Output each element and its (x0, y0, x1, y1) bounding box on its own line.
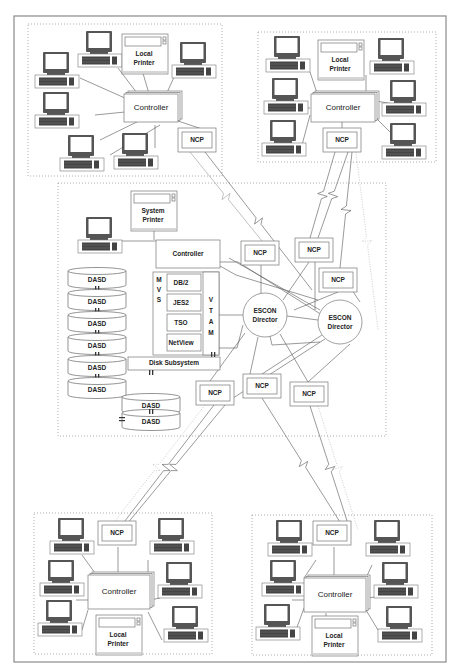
printer-label-line2: Printer (108, 640, 129, 647)
ncp-label: NCP (302, 390, 316, 397)
dasd-disk: DASD (68, 356, 126, 377)
printer-label-line1: Local (326, 632, 343, 639)
controller-label: Controller (102, 587, 137, 596)
mainframe-host: MVSDB/2JES2TSONetViewVTAM (153, 272, 219, 355)
escon-director: ESCONDirector (318, 300, 362, 344)
dasd-disk: DASD (68, 268, 126, 289)
ncp-node: NCP (243, 374, 281, 398)
disk-subsystem-label: Disk Subsystem (149, 359, 199, 367)
escon-label-line1: ESCON (253, 307, 276, 314)
dasd-label: DASD (142, 402, 161, 409)
host-controller: Controller (156, 240, 220, 268)
disk-subsystem: Disk Subsystem (128, 357, 220, 370)
dasd-disk: DASD (68, 312, 126, 333)
controller-label: Controller (134, 103, 169, 112)
dasd-label: DASD (88, 342, 107, 349)
controller: Controller (88, 572, 154, 609)
escon-label-line2: Director (328, 323, 353, 330)
ncp-node: NCP (290, 382, 328, 406)
ncp-node: NCP (196, 381, 234, 405)
ncp-label: NCP (307, 246, 321, 253)
local-printer: LocalPrinter (318, 40, 364, 80)
ncp-node: NCP (98, 521, 136, 545)
dasd-disk: DASD (68, 378, 126, 399)
printer-label-line2: Printer (330, 65, 351, 72)
escon-director: ESCONDirector (243, 293, 287, 337)
ncp-label: NCP (110, 529, 124, 536)
host-controller-label: Controller (172, 250, 204, 257)
escon-label-line1: ESCON (328, 314, 351, 321)
dasd-label: DASD (88, 298, 107, 305)
local-printer: LocalPrinter (122, 34, 168, 74)
ncp-node: NCP (323, 128, 361, 152)
ncp-label: NCP (255, 382, 269, 389)
printer-label-line2: Printer (324, 641, 345, 648)
subsystem-label: DB/2 (174, 279, 189, 286)
local-printer: LocalPrinter (312, 616, 358, 656)
mvs-letter: V (157, 286, 162, 293)
vtam-letter: V (209, 296, 214, 303)
ncp-node: NCP (313, 521, 351, 545)
local-printer: LocalPrinter (96, 615, 142, 655)
network-diagram: LocalPrinterControllerNCPLocalPrinterCon… (0, 0, 456, 671)
controller-label: Controller (326, 103, 361, 112)
dasd-disk: DASD (68, 334, 126, 355)
system-printer: SystemPrinter (131, 191, 177, 231)
mvs-letter: M (156, 276, 161, 283)
ncp-label: NCP (331, 276, 345, 283)
ncp-label: NCP (335, 136, 349, 143)
printer-label-line2: Printer (143, 216, 164, 223)
ncp-node: NCP (241, 241, 279, 265)
vtam-letter: T (209, 307, 213, 314)
dasd-label: DASD (142, 418, 161, 425)
subsystem-label: TSO (174, 319, 187, 326)
controller: Controller (124, 91, 182, 122)
ncp-node: NCP (295, 238, 333, 262)
ncp-label: NCP (253, 249, 267, 256)
dasd-label: DASD (88, 276, 107, 283)
controller: Controller (311, 91, 379, 122)
printer-label-line1: Local (136, 50, 153, 57)
subsystem-label: NetView (168, 339, 194, 346)
subsystem-label: JES2 (173, 299, 189, 306)
vtam-letter: M (208, 329, 213, 336)
dasd-disk: DASD (122, 410, 180, 431)
vtam-letter: A (209, 318, 214, 325)
printer-label-line1: Local (110, 631, 127, 638)
printer-label-line1: Local (332, 56, 349, 63)
dasd-label: DASD (88, 386, 107, 393)
dasd-disk: DASD (68, 290, 126, 311)
ncp-label: NCP (325, 529, 339, 536)
dasd-label: DASD (88, 320, 107, 327)
controller-label: Controller (318, 590, 353, 599)
ncp-label: NCP (208, 389, 222, 396)
printer-label-line2: Printer (134, 59, 155, 66)
ncp-label: NCP (190, 136, 204, 143)
dasd-label: DASD (88, 364, 107, 371)
ncp-node: NCP (178, 128, 216, 152)
diagram-canvas: LocalPrinterControllerNCPLocalPrinterCon… (0, 0, 456, 671)
printer-label-line1: System (141, 207, 164, 215)
mvs-letter: S (157, 296, 162, 303)
ncp-node: NCP (319, 268, 357, 292)
escon-label-line2: Director (253, 316, 278, 323)
controller: Controller (304, 575, 370, 612)
